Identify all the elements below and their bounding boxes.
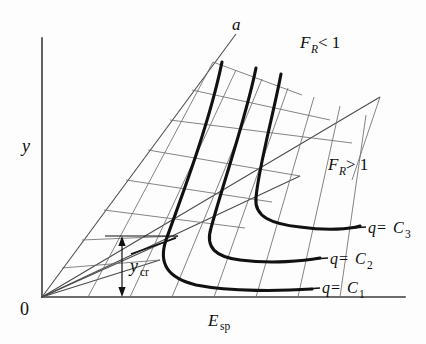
ycr-sub: cr [140, 266, 149, 278]
x-axis-label-sub: sp [220, 320, 230, 333]
label-c1-eq: = [331, 279, 340, 296]
label-c3-index: 3 [405, 228, 411, 240]
asymptote-label: a [232, 15, 241, 34]
specific-energy-diagram: y 0 E sp a F R < 1 F R > 1 y cr q = C 3 … [0, 0, 426, 344]
label-c2-index: 2 [367, 259, 373, 271]
label-c2-q: q [330, 250, 338, 268]
froude-sub-rel: < 1 [318, 33, 340, 52]
label-c3-q: q [368, 219, 376, 237]
froude-sub-r: R [310, 43, 318, 55]
froude-super-rel: > 1 [346, 155, 368, 174]
label-c2-eq: = [339, 250, 348, 267]
label-c1-c: C [347, 279, 358, 296]
x-axis-label-main: E [207, 311, 219, 330]
label-c1-index: 1 [359, 288, 365, 300]
leader-c1 [306, 288, 320, 289]
froude-super-f: F [327, 155, 339, 174]
label-c3-c: C [393, 219, 404, 236]
leader-c2 [314, 258, 328, 259]
froude-super-r: R [338, 165, 346, 177]
label-c3-eq: = [377, 219, 386, 236]
label-c2-c: C [355, 250, 366, 267]
froude-sub-f: F [299, 33, 311, 52]
label-c1-q: q [322, 279, 330, 297]
froude-subcritical-label: F R < 1 [299, 33, 340, 55]
leader-c3 [352, 227, 366, 228]
origin-label: 0 [20, 299, 29, 319]
y-axis-label: y [20, 136, 30, 156]
froude-supercritical-label: F R > 1 [327, 155, 368, 177]
ycr-main: y [128, 256, 138, 276]
